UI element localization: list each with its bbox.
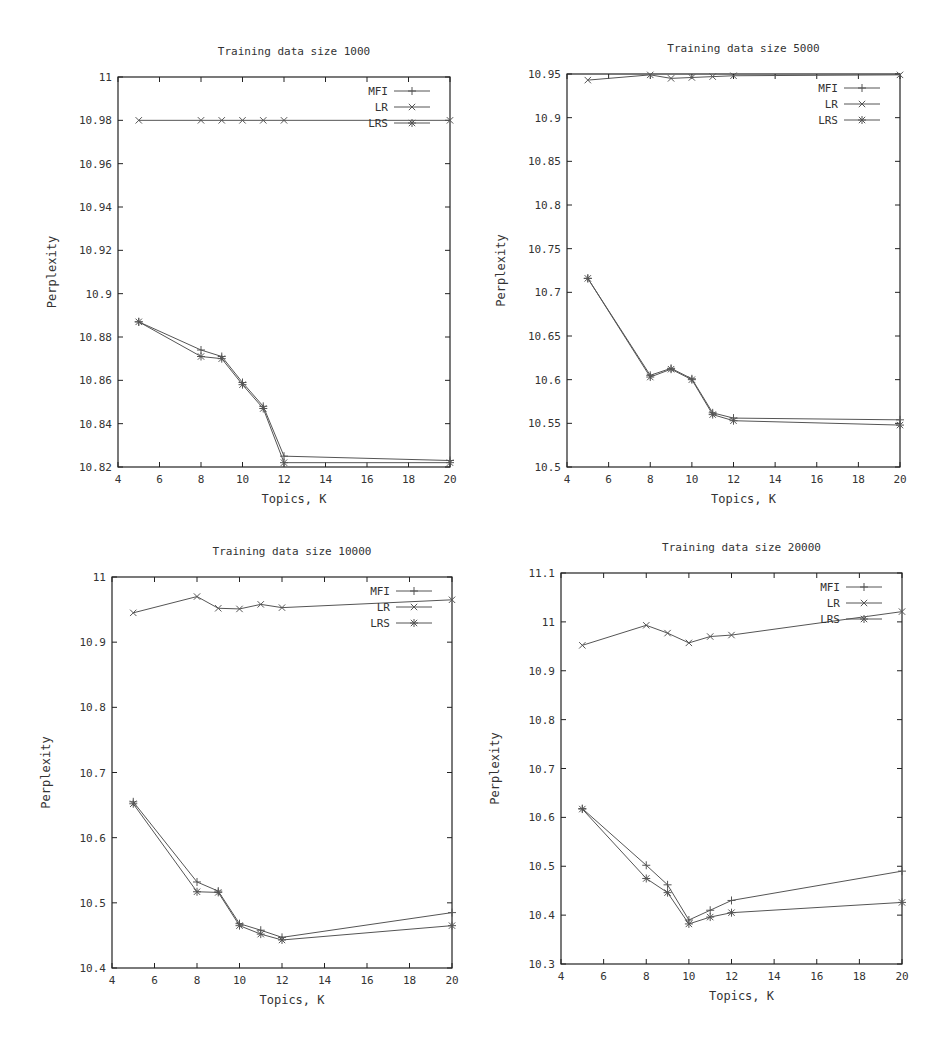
y-tick-label: 10.8 xyxy=(535,199,562,212)
chart-title: Training data size 20000 xyxy=(662,541,821,554)
lrs-marker xyxy=(197,353,205,361)
lr-marker xyxy=(579,642,585,648)
legend-lrs-marker xyxy=(408,119,416,127)
lrs-marker xyxy=(688,376,696,384)
mfi-marker xyxy=(706,906,714,914)
legend-label-lr: LR xyxy=(827,597,841,610)
legend-label-mfi: MFI xyxy=(368,85,388,98)
y-axis-label: Perplexity xyxy=(39,736,53,808)
x-axis-label: Topics, K xyxy=(261,492,327,506)
lrs-marker xyxy=(896,421,904,429)
legend-label-mfi: MFI xyxy=(818,82,838,95)
lr-marker xyxy=(194,593,200,599)
x-tick-label: 4 xyxy=(115,473,122,486)
y-tick-label: 10.5 xyxy=(535,461,562,474)
y-tick-label: 10.6 xyxy=(535,374,562,387)
y-axis-label: Perplexity xyxy=(45,236,59,308)
legend-label-mfi: MFI xyxy=(370,585,390,598)
lrs-marker xyxy=(646,373,654,381)
x-tick-label: 6 xyxy=(600,970,607,983)
lrs-marker xyxy=(214,888,222,896)
y-tick-label: 10.82 xyxy=(79,461,112,474)
lrs-marker xyxy=(898,898,906,906)
x-tick-label: 14 xyxy=(768,970,782,983)
legend-mfi-marker xyxy=(410,587,418,595)
y-tick-label: 10.8 xyxy=(529,714,556,727)
y-tick-label: 10.75 xyxy=(528,243,561,256)
y-tick-label: 10.4 xyxy=(529,909,556,922)
x-tick-label: 12 xyxy=(725,970,738,983)
legend-label-lrs: LRS xyxy=(820,613,840,626)
y-tick-label: 10.9 xyxy=(529,665,556,678)
y-tick-label: 10.6 xyxy=(80,832,107,845)
plot-frame xyxy=(112,577,452,968)
series-lr xyxy=(579,608,905,648)
y-tick-label: 10.96 xyxy=(79,158,112,171)
x-tick-label: 4 xyxy=(109,974,116,987)
y-tick-label: 10.88 xyxy=(79,331,112,344)
x-tick-label: 20 xyxy=(895,970,908,983)
y-tick-label: 10.5 xyxy=(80,897,107,910)
x-tick-label: 16 xyxy=(360,974,373,987)
x-tick-label: 18 xyxy=(853,970,866,983)
y-tick-label: 10.9 xyxy=(86,288,113,301)
y-tick-label: 10.3 xyxy=(529,958,556,971)
x-tick-label: 8 xyxy=(647,473,654,486)
lr-marker xyxy=(130,610,136,616)
legend-label-mfi: MFI xyxy=(820,581,840,594)
x-tick-label: 14 xyxy=(769,473,783,486)
y-tick-label: 10.84 xyxy=(79,418,112,431)
lrs-marker xyxy=(446,459,454,467)
y-tick-label: 11 xyxy=(99,71,112,84)
y-axis-label: Perplexity xyxy=(488,732,502,804)
lrs-marker xyxy=(218,355,226,363)
lrs-marker xyxy=(728,909,736,917)
series-lr xyxy=(130,593,455,616)
series-mfi xyxy=(584,274,904,423)
x-tick-label: 12 xyxy=(727,473,740,486)
lrs-marker xyxy=(129,800,137,808)
x-tick-label: 14 xyxy=(319,473,333,486)
x-tick-label: 8 xyxy=(643,970,650,983)
legend-label-lrs: LRS xyxy=(818,114,838,127)
y-tick-label: 10.92 xyxy=(79,244,112,257)
chart-title: Training data size 5000 xyxy=(667,42,819,55)
x-tick-label: 8 xyxy=(198,473,205,486)
mfi-marker xyxy=(448,909,456,917)
series-lrs xyxy=(584,274,904,429)
y-tick-label: 10.6 xyxy=(529,811,556,824)
x-tick-label: 6 xyxy=(605,473,612,486)
x-tick-label: 6 xyxy=(151,974,158,987)
legend: MFILRLRS xyxy=(370,585,432,630)
x-tick-label: 4 xyxy=(564,473,571,486)
chart-panel-size-5000: Training data size 500046810121416182010… xyxy=(494,42,907,506)
y-tick-label: 10.7 xyxy=(80,767,107,780)
y-tick-label: 10.86 xyxy=(79,374,112,387)
series-lrs xyxy=(578,805,906,928)
x-axis-label: Topics, K xyxy=(709,989,775,1003)
y-tick-label: 11.1 xyxy=(529,567,556,580)
y-tick-label: 10.98 xyxy=(79,114,112,127)
lrs-marker xyxy=(667,365,675,373)
x-tick-label: 12 xyxy=(275,974,288,987)
lrs-marker xyxy=(193,888,201,896)
lrs-marker xyxy=(584,274,592,282)
chart-panel-size-1000: Training data size 100046810121416182010… xyxy=(45,45,457,506)
y-tick-label: 10.9 xyxy=(535,112,562,125)
legend-mfi-marker xyxy=(408,87,416,95)
lrs-marker xyxy=(135,318,143,326)
plot-frame xyxy=(567,74,900,467)
series-mfi xyxy=(578,805,906,924)
x-tick-label: 20 xyxy=(445,974,458,987)
x-tick-label: 4 xyxy=(558,970,565,983)
series-lrs xyxy=(135,318,454,467)
lrs-marker xyxy=(448,922,456,930)
x-tick-label: 6 xyxy=(156,473,163,486)
chart-panel-size-10000: Training data size 100004681012141618201… xyxy=(39,545,459,1007)
y-tick-label: 10.85 xyxy=(528,155,561,168)
y-tick-label: 10.4 xyxy=(80,962,107,975)
lrs-marker xyxy=(730,417,738,425)
series-mfi xyxy=(135,318,454,465)
lrs-marker xyxy=(642,874,650,882)
y-tick-label: 10.7 xyxy=(535,286,562,299)
